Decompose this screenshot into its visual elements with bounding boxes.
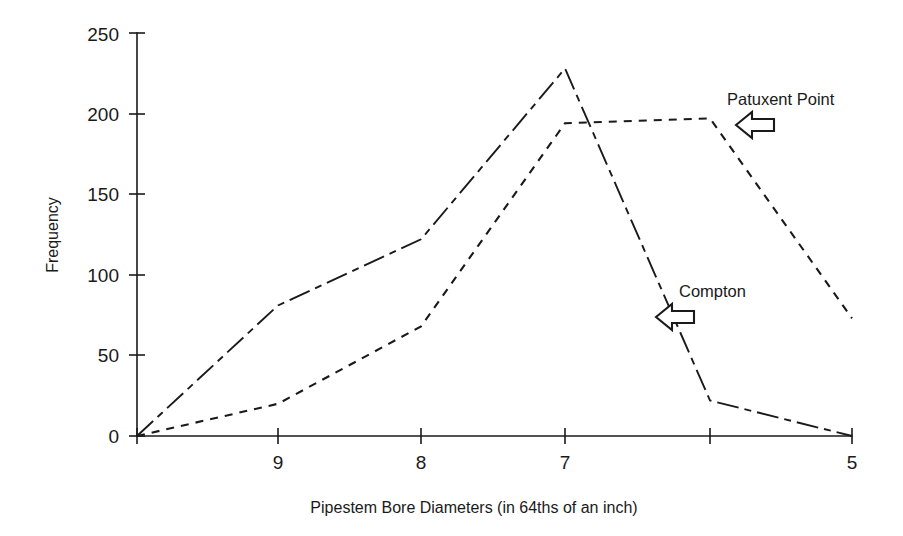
annotation-label-compton: Compton: [679, 282, 746, 300]
x-tick-label-8: 8: [416, 452, 427, 473]
y-axis-tick-labels: 0 50 100 150 200 250: [87, 24, 119, 447]
y-tick-label-50: 50: [98, 345, 119, 366]
y-axis-group: 0 50 100 150 200 250 Frequency: [44, 24, 145, 447]
series-line-patuxent: [137, 118, 852, 436]
y-axis-title: Frequency: [44, 197, 61, 273]
left-block-arrow-icon: [736, 112, 774, 138]
chart-figure: 0 50 100 150 200 250 Frequency 9: [0, 0, 903, 536]
annotation-compton: Compton: [656, 282, 746, 330]
y-tick-label-200: 200: [87, 104, 119, 125]
x-axis-title: Pipestem Bore Diameters (in 64ths of an …: [310, 499, 637, 516]
x-tick-label-7: 7: [560, 452, 571, 473]
annotation-patuxent-point: Patuxent Point: [727, 90, 835, 138]
y-tick-label-0: 0: [108, 426, 119, 447]
x-axis-tick-labels: 9 8 7 5: [273, 452, 858, 473]
y-tick-label-250: 250: [87, 24, 119, 45]
y-tick-label-100: 100: [87, 265, 119, 286]
x-tick-label-9: 9: [273, 452, 284, 473]
y-tick-label-150: 150: [87, 184, 119, 205]
annotation-label-patuxent-point: Patuxent Point: [727, 90, 835, 108]
line-chart-canvas: 0 50 100 150 200 250 Frequency 9: [0, 0, 903, 536]
x-axis-group: 9 8 7 5 Pipestem Bore Diameters (in 64th…: [137, 428, 857, 516]
left-block-arrow-icon: [656, 304, 694, 330]
x-tick-label-5: 5: [847, 452, 858, 473]
